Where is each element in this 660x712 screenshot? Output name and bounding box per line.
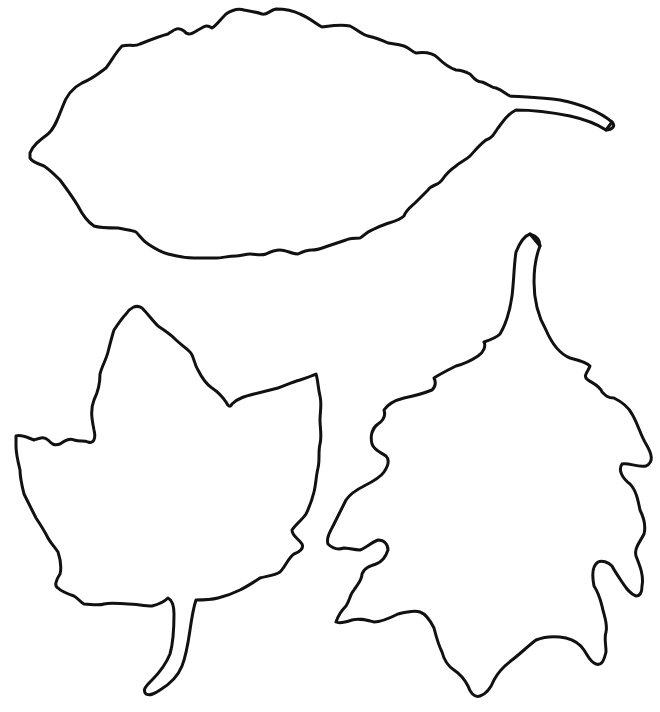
- lobed-leaf-icon: [16, 306, 321, 694]
- elongated-leaf-icon: [30, 9, 614, 258]
- oak-leaf-icon: [327, 234, 651, 696]
- leaf-outlines-drawing: [0, 0, 660, 712]
- leaf-template-canvas: [0, 0, 660, 712]
